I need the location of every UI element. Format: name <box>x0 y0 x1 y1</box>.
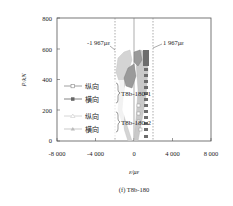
svg-text:200: 200 <box>42 107 52 114</box>
svg-text:0: 0 <box>49 137 52 144</box>
svg-text:横向: 横向 <box>85 95 99 104</box>
svg-text:8 000: 8 000 <box>204 150 219 157</box>
x-axis-label: ε/με <box>129 168 140 175</box>
y-tick-labels: 0 200 400 600 800 <box>42 15 52 144</box>
ref-leader-neg <box>110 46 115 50</box>
svg-text:0: 0 <box>132 150 135 157</box>
svg-text:纵向: 纵向 <box>85 82 99 91</box>
ref-leader-pos <box>153 44 162 48</box>
svg-text:纵向: 纵向 <box>85 112 99 121</box>
svg-text:-4 000: -4 000 <box>87 150 104 157</box>
x-tick-labels: -8 000 -4 000 0 4 000 8 000 <box>49 150 219 157</box>
svg-text:-8 000: -8 000 <box>49 150 66 157</box>
chart: 0 200 400 600 800 -8 000 -4 000 0 4 000 … <box>0 0 233 206</box>
y-axis-label: P/kN <box>20 73 27 88</box>
caption: (f) T8b-180 <box>119 186 149 194</box>
ref-label-neg: -1 967με <box>87 39 110 46</box>
svg-text:横向: 横向 <box>85 125 99 134</box>
svg-text:800: 800 <box>42 15 52 22</box>
svg-text:600: 600 <box>42 46 52 53</box>
ref-label-pos: 1 967με <box>163 39 184 46</box>
legend-group-2-label: T8b-180-2 <box>121 119 151 127</box>
svg-text:400: 400 <box>42 76 52 83</box>
legend-group-1-label: T8b-180-1 <box>121 90 151 98</box>
svg-text:4 000: 4 000 <box>165 150 180 157</box>
